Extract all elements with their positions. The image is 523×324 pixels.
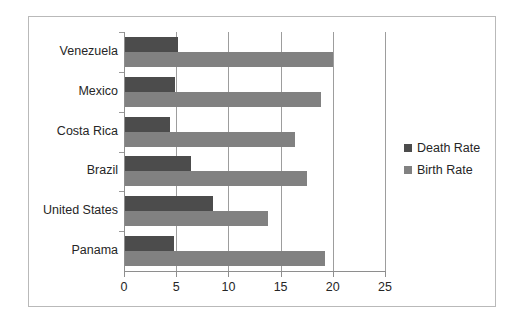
legend-item-death-rate[interactable]: Death Rate (404, 137, 490, 159)
category-label-venezuela: Venezuela (10, 44, 118, 59)
x-axis-line (124, 271, 386, 272)
gridline-25 (385, 32, 386, 271)
bar-birth-rate-panama (125, 251, 325, 266)
y-axis-tick-4 (119, 191, 124, 192)
legend-swatch-icon (404, 166, 412, 174)
bar-birth-rate-costa-rica (125, 132, 295, 147)
legend-swatch-icon (404, 144, 412, 152)
gridline-10 (228, 32, 229, 271)
gridline-5 (176, 32, 177, 271)
bar-death-rate-brazil (125, 156, 191, 171)
x-axis-tick-label-15: 15 (261, 279, 301, 295)
category-label-costa-rica: Costa Rica (10, 124, 118, 139)
legend-label: Birth Rate (417, 163, 473, 177)
x-axis-tick-label-20: 20 (313, 279, 353, 295)
category-label-united-states: United States (10, 203, 118, 218)
gridline-15 (281, 32, 282, 271)
bar-birth-rate-brazil (125, 171, 307, 186)
bar-death-rate-venezuela (125, 37, 178, 52)
x-axis-tick-label-10: 10 (208, 279, 248, 295)
legend-label: Death Rate (417, 141, 480, 155)
y-axis-tick-0 (119, 32, 124, 33)
bar-death-rate-panama (125, 236, 174, 251)
legend-item-birth-rate[interactable]: Birth Rate (404, 159, 490, 181)
bar-death-rate-costa-rica (125, 117, 170, 132)
chart-figure: 0510152025 VenezuelaMexicoCosta RicaBraz… (0, 0, 523, 324)
category-label-mexico: Mexico (10, 84, 118, 99)
gridline-20 (333, 32, 334, 271)
category-label-panama: Panama (10, 243, 118, 258)
bar-birth-rate-mexico (125, 92, 321, 107)
bar-birth-rate-venezuela (125, 52, 333, 67)
y-axis-tick-2 (119, 112, 124, 113)
bar-birth-rate-united-states (125, 211, 268, 226)
category-label-brazil: Brazil (10, 163, 118, 178)
category-axis-labels: VenezuelaMexicoCosta RicaBrazilUnited St… (10, 0, 118, 324)
y-axis-tick-3 (119, 152, 124, 153)
y-axis-tick-5 (119, 231, 124, 232)
bar-death-rate-united-states (125, 196, 213, 211)
chart-legend: Death RateBirth Rate (404, 137, 490, 181)
x-axis-tick-label-5: 5 (156, 279, 196, 295)
y-axis-tick-1 (119, 72, 124, 73)
bar-death-rate-mexico (125, 77, 175, 92)
x-axis-tick-label-25: 25 (365, 279, 405, 295)
